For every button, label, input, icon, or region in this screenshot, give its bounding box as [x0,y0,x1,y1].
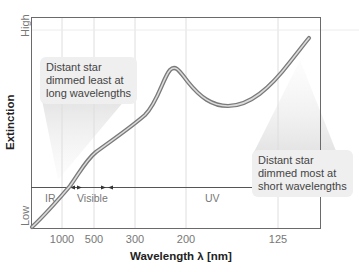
band-label-ir: IR [45,192,56,204]
x-tick-300: 300 [126,233,144,245]
band-label-uv: UV [205,192,220,204]
chart-plot [0,0,359,272]
x-tick-125: 125 [269,233,287,245]
callout-line: Distant star [46,61,131,74]
callout-least-dimmed: Distant star dimmed least at long wavele… [40,57,137,104]
x-tick-500: 500 [85,233,103,245]
callout-line: long wavelengths [46,87,131,100]
y-axis-title: Extinction [4,94,16,150]
callout-most-dimmed: Distant star dimmed most at short wavele… [252,150,353,197]
band-label-visible: Visible [77,192,108,204]
callout-line: short wavelengths [258,180,347,193]
y-tick-high: High [19,14,31,37]
x-tick-200: 200 [177,233,195,245]
callout-line: dimmed most at [258,167,347,180]
callout-line: dimmed least at [46,74,131,87]
x-tick-1000: 1000 [50,233,74,245]
y-tick-low: Low [19,206,31,226]
callout-line: Distant star [258,154,347,167]
x-axis-title: Wavelength λ [nm] [130,250,232,262]
